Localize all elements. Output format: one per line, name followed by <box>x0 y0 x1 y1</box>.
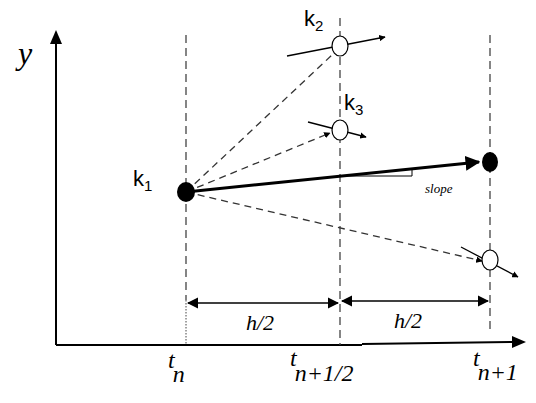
rk-diagram: y k1 k2 k3 slope h/2 h/2 tn tn+1/2 tn+1 <box>0 0 536 403</box>
y-axis-label: y <box>15 35 33 71</box>
slope-annotation: slope <box>425 181 453 196</box>
dashed-to-k2 <box>186 55 332 192</box>
tick-tmid: tn+1/2 <box>290 345 354 386</box>
point-k4 <box>482 250 498 270</box>
tick-tn: tn <box>168 347 185 387</box>
y-axis-arrow-icon <box>50 30 62 44</box>
point-k1 <box>177 182 195 202</box>
interval-2-label: h/2 <box>394 308 422 333</box>
point-k2 <box>332 36 348 56</box>
point-k3 <box>332 120 348 140</box>
points <box>177 36 498 270</box>
interval-dimensions <box>188 301 488 303</box>
label-k3: k3 <box>344 90 363 118</box>
x-axis-arrow-icon <box>512 336 526 348</box>
point-next <box>482 152 498 172</box>
tick-tn1: tn+1 <box>473 345 518 385</box>
label-k2: k2 <box>304 6 323 34</box>
trial-slopes <box>186 55 482 261</box>
interval-1-label: h/2 <box>246 310 274 335</box>
label-k1: k1 <box>133 166 152 194</box>
dashed-to-k4 <box>186 192 482 261</box>
